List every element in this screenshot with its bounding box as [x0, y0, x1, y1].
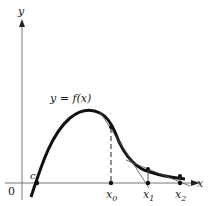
x1-label: x1: [143, 188, 154, 203]
curve-point-x2: [178, 174, 182, 178]
y-axis-label: y: [17, 5, 25, 18]
root-point-c: [35, 181, 39, 185]
axis-point-x2: [178, 181, 182, 185]
root-label: c: [30, 170, 36, 181]
function-curve: [31, 110, 185, 197]
x-axis-label: x: [197, 177, 204, 190]
curve-point-x0: [109, 125, 113, 129]
curve-point-x1: [146, 167, 150, 171]
y-axis-arrow-icon: [19, 19, 25, 27]
curve-label: y = f(x): [49, 92, 91, 105]
x0-label: x0: [106, 188, 117, 203]
newton-method-diagram: y x 0 c y = f(x) x0 x1 x2: [0, 0, 208, 206]
tangent-line-x0: [100, 112, 149, 188]
origin-label: 0: [8, 185, 15, 198]
axis-point-x1: [146, 181, 150, 185]
axis-point-x0: [109, 181, 113, 185]
x2-label: x2: [175, 188, 186, 203]
